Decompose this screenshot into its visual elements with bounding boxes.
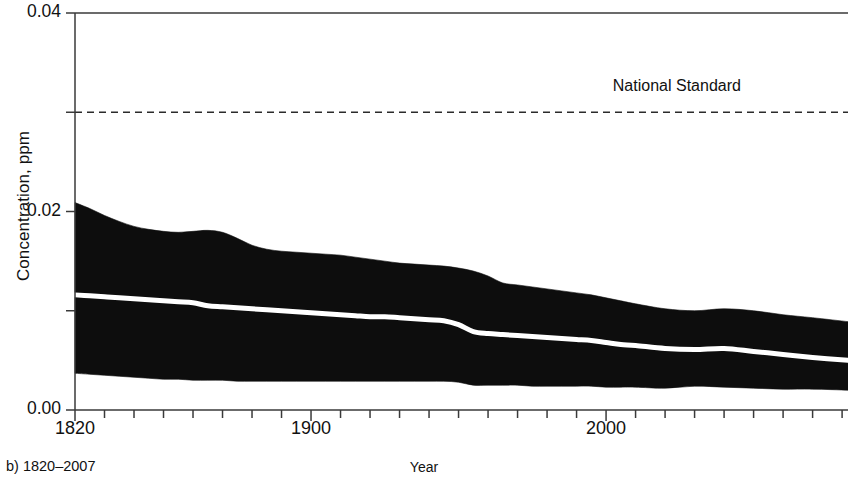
plot-area [0,0,848,488]
figure-b-concentration: Concentration, ppm 0.04 0.02 0.00 1820 1… [0,0,848,488]
figure-caption: b) 1820–2007 [6,458,96,474]
concentration-range-band [75,203,848,391]
x-axis-title: Year [0,459,848,475]
